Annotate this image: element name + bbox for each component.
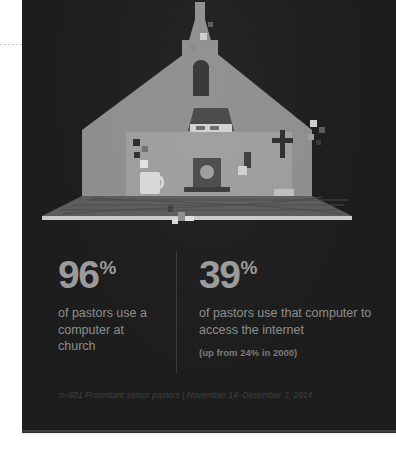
panel-drop-shadow	[22, 430, 396, 435]
stat-value-39: 39%	[199, 248, 378, 295]
desk-object-shape	[274, 189, 294, 197]
stat-value-96: 96%	[58, 248, 162, 295]
stat-number: 96	[58, 253, 98, 296]
desk-paper-shape	[238, 166, 247, 175]
coffee-mug-shape	[140, 172, 163, 194]
infographic-page: 96% of pastors use a computer at church …	[0, 0, 396, 451]
desktop-computer-shape	[188, 108, 234, 132]
percent-symbol: %	[240, 257, 257, 278]
stat-number: 39	[199, 253, 239, 296]
percent-symbol: %	[99, 257, 116, 278]
statistics-section: 96% of pastors use a computer at church …	[58, 248, 378, 374]
desk-pen-shape	[244, 152, 251, 168]
stat-sub-note: (up from 24% in 2000)	[199, 347, 378, 359]
arched-window-shape	[193, 60, 209, 96]
source-footnote: n=601 Protestant senior pastors | Novemb…	[59, 390, 312, 401]
stat-block-pastors-use-internet: 39% of pastors use that computer to acce…	[199, 248, 378, 359]
infographic-panel: 96% of pastors use a computer at church …	[22, 0, 396, 433]
statistics-row: 96% of pastors use a computer at church …	[58, 248, 378, 374]
stats-divider	[176, 252, 177, 374]
stat-block-pastors-use-computer: 96% of pastors use a computer at church	[58, 248, 162, 355]
wooden-desk-shape	[42, 196, 352, 220]
stat-description: of pastors use a computer at church	[58, 305, 162, 355]
stat-description: of pastors use that computer to access t…	[199, 305, 378, 338]
church-computer-illustration	[22, 0, 396, 230]
